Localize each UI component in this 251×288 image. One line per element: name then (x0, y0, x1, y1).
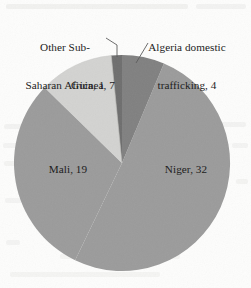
pie-chart-figure: Other Sub- Saharan Africa, 1 Algeria dom… (0, 0, 251, 288)
pie-label-mali: Mali, 19 (26, 163, 110, 176)
pie-label-algeria-line1: Algeria domestic (130, 41, 244, 54)
pie-label-guinea: Guinea, 7 (48, 79, 138, 92)
pie-label-algeria-line2: trafficking, 4 (130, 79, 244, 92)
pie-label-niger: Niger, 32 (144, 163, 228, 176)
pie-label-other-line1: Other Sub- (10, 41, 120, 54)
pie-label-other-sub-saharan-africa: Other Sub- Saharan Africa, 1 (10, 16, 120, 117)
pie-label-algeria-domestic-trafficking: Algeria domestic trafficking, 4 (130, 16, 244, 117)
